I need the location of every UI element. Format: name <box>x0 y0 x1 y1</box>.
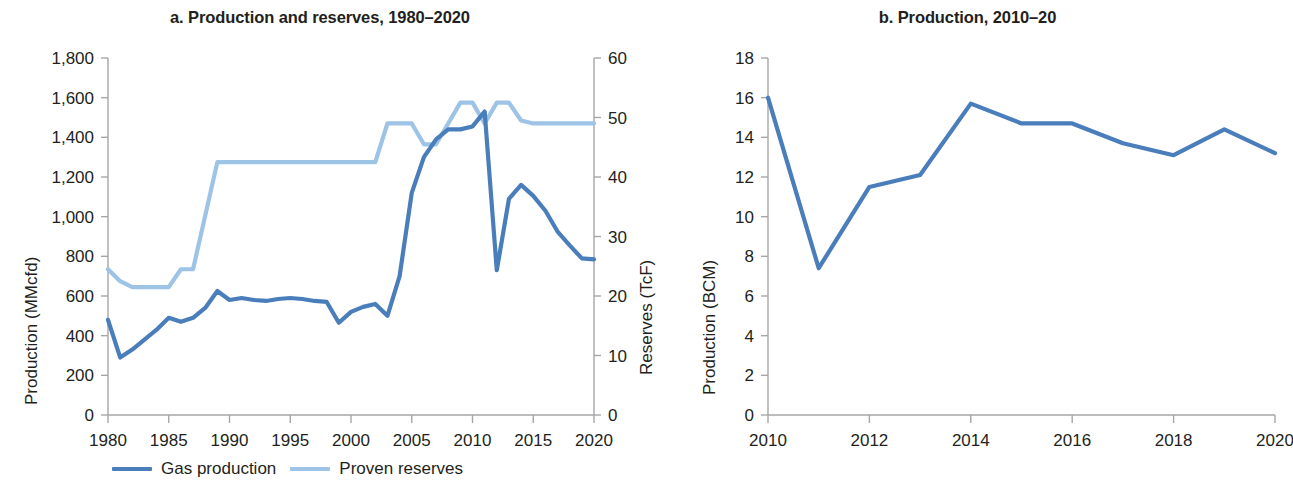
panel-b-plot: 024681012141618201020122014201620182020 <box>660 0 1293 487</box>
panel-b-y-tick-label: 4 <box>745 327 754 346</box>
panel-a-y-left-tick-label: 1,600 <box>51 89 94 108</box>
panel-b-y-tick-label: 18 <box>735 49 754 68</box>
panel-b-y-tick-label: 10 <box>735 208 754 227</box>
panel-a-y-left-tick-label: 200 <box>66 366 94 385</box>
legend-swatch-proven-reserves <box>290 467 330 471</box>
panel-b-production: b. Production, 2010–20 02468101214161820… <box>660 0 1293 487</box>
panel-b-y-axis-title: Production (BCM) <box>700 260 720 395</box>
legend-swatch-gas-production <box>112 467 152 471</box>
panel-b-y-tick-label: 8 <box>745 247 754 266</box>
panel-a-x-tick-label: 2020 <box>575 431 613 450</box>
panel-a-y-right-tick-label: 60 <box>608 49 627 68</box>
panel-b-x-tick-label: 2018 <box>1155 431 1193 450</box>
panel-a-y-left-tick-label: 800 <box>66 247 94 266</box>
panel-a-x-tick-label: 2000 <box>332 431 370 450</box>
panel-b-x-tick-label: 2020 <box>1256 431 1293 450</box>
panel-a-plot: 02004006008001,0001,2001,4001,6001,80001… <box>0 0 660 487</box>
panel-a-y-right-tick-label: 20 <box>608 287 627 306</box>
panel-a-production-and-reserves: a. Production and reserves, 1980–2020 02… <box>0 0 660 487</box>
panel-a-x-tick-label: 1995 <box>271 431 309 450</box>
panel-b-y-tick-label: 6 <box>745 287 754 306</box>
panel-b-y-tick-label: 16 <box>735 89 754 108</box>
panel-a-y-right-tick-label: 0 <box>608 406 617 425</box>
panel-a-y-right-tick-label: 40 <box>608 168 627 187</box>
panel-a-y-left-tick-label: 400 <box>66 327 94 346</box>
legend-label-gas-production: Gas production <box>161 459 276 479</box>
panel-a-series-gas-production <box>108 112 594 358</box>
panel-a-y-left-tick-label: 0 <box>85 406 94 425</box>
panel-a-y-left-tick-label: 1,800 <box>51 49 94 68</box>
panel-a-x-tick-label: 2010 <box>454 431 492 450</box>
legend: Gas production Proven reserves <box>112 459 463 479</box>
panel-b-x-tick-label: 2010 <box>749 431 787 450</box>
panel-a-y-left-tick-label: 600 <box>66 287 94 306</box>
legend-label-proven-reserves: Proven reserves <box>339 459 463 479</box>
panel-b-x-tick-label: 2014 <box>952 431 990 450</box>
panel-b-y-tick-label: 2 <box>745 366 754 385</box>
panel-a-x-tick-label: 2005 <box>393 431 431 450</box>
panel-a-y-right-tick-label: 10 <box>608 347 627 366</box>
panel-a-y-left-tick-label: 1,400 <box>51 128 94 147</box>
panel-a-x-tick-label: 1985 <box>150 431 188 450</box>
legend-item-proven-reserves: Proven reserves <box>290 459 463 479</box>
panel-a-x-tick-label: 1980 <box>89 431 127 450</box>
panel-a-y-left-tick-label: 1,000 <box>51 208 94 227</box>
panel-b-y-tick-label: 14 <box>735 128 754 147</box>
panel-a-y-right-axis-title: Reserves (TcF) <box>637 260 657 375</box>
panel-b-x-tick-label: 2012 <box>850 431 888 450</box>
panel-b-x-tick-label: 2016 <box>1053 431 1091 450</box>
panel-a-x-tick-label: 2015 <box>514 431 552 450</box>
legend-item-gas-production: Gas production <box>112 459 276 479</box>
panel-a-series-proven-reserves <box>108 103 594 287</box>
panel-a-x-tick-label: 1990 <box>211 431 249 450</box>
panel-a-y-right-tick-label: 50 <box>608 109 627 128</box>
figure-container: a. Production and reserves, 1980–2020 02… <box>0 0 1293 487</box>
panel-a-y-right-tick-label: 30 <box>608 228 627 247</box>
panel-b-series-production <box>768 98 1275 269</box>
panel-b-y-tick-label: 12 <box>735 168 754 187</box>
panel-a-y-left-tick-label: 1,200 <box>51 168 94 187</box>
panel-b-y-tick-label: 0 <box>745 406 754 425</box>
panel-a-y-left-axis-title: Production (MMcfd) <box>22 257 42 405</box>
